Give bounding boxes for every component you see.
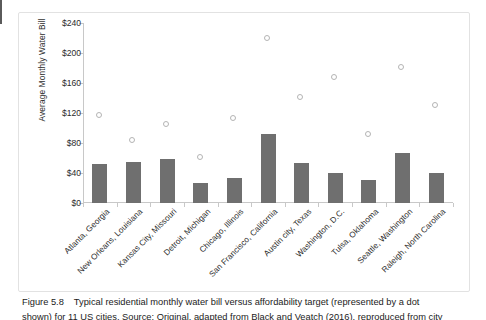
bar [193,183,208,203]
plot-area: $0$40$80$120$160$200$240Atlanta, Georgia… [83,23,453,203]
x-axis-tick-label: Kansas City, Missouri [116,207,178,269]
figure-container: Average Monthly Water Bill $0$40$80$120$… [18,12,470,292]
y-axis-tick-label: $200 [37,48,81,58]
bar [361,180,376,203]
affordability-target-dot [129,137,135,143]
x-axis-tick [251,203,252,207]
bar [328,173,343,203]
page-edge-rule [0,0,2,24]
y-axis-tick-label: $40 [37,168,81,178]
figure-caption-text: Typical residential monthly water bill v… [74,297,420,307]
x-axis-tick [117,203,118,207]
bar [261,134,276,203]
affordability-target-dot [230,115,236,121]
affordability-target-dot [398,64,404,70]
bar [429,173,444,203]
bar [92,164,107,203]
y-axis-tick-label: $240 [37,18,81,28]
x-axis-tick [83,203,84,207]
x-axis-tick [218,203,219,207]
affordability-target-dot [197,154,203,160]
affordability-target-dot [331,74,337,80]
x-axis-tick [150,203,151,207]
y-axis-line [83,23,84,203]
affordability-target-dot [432,102,438,108]
bar [294,163,309,203]
x-axis-tick [386,203,387,207]
x-axis-tick [352,203,353,207]
y-axis-tick-label: $80 [37,138,81,148]
figure-caption: Figure 5.8Typical residential monthly wa… [22,296,482,310]
affordability-target-dot [264,35,270,41]
x-axis-tick [419,203,420,207]
affordability-target-dot [297,94,303,100]
y-axis-tick-label: $160 [37,78,81,88]
bar [126,162,141,203]
bar [160,159,175,203]
affordability-target-dot [163,121,169,127]
chart-canvas: Average Monthly Water Bill $0$40$80$120$… [19,13,471,293]
bar [227,178,242,204]
x-axis-tick [184,203,185,207]
affordability-target-dot [96,112,102,118]
y-axis-tick-label: $120 [37,108,81,118]
x-axis-tick-label: New Orleans, Louisiana [76,207,145,276]
bar [395,153,410,203]
y-axis-tick-label: $0 [37,198,81,208]
affordability-target-dot [365,131,371,137]
x-axis-tick [285,203,286,207]
x-axis-tick-label: San Francisco, California [207,207,279,279]
x-axis-tick [453,203,454,207]
figure-caption-line2: shown) for 11 US cities. Source: Origina… [22,311,482,320]
x-axis-tick [318,203,319,207]
figure-number: Figure 5.8 [22,297,64,307]
x-axis-tick-label: Raleigh, North Carolina [380,207,447,274]
